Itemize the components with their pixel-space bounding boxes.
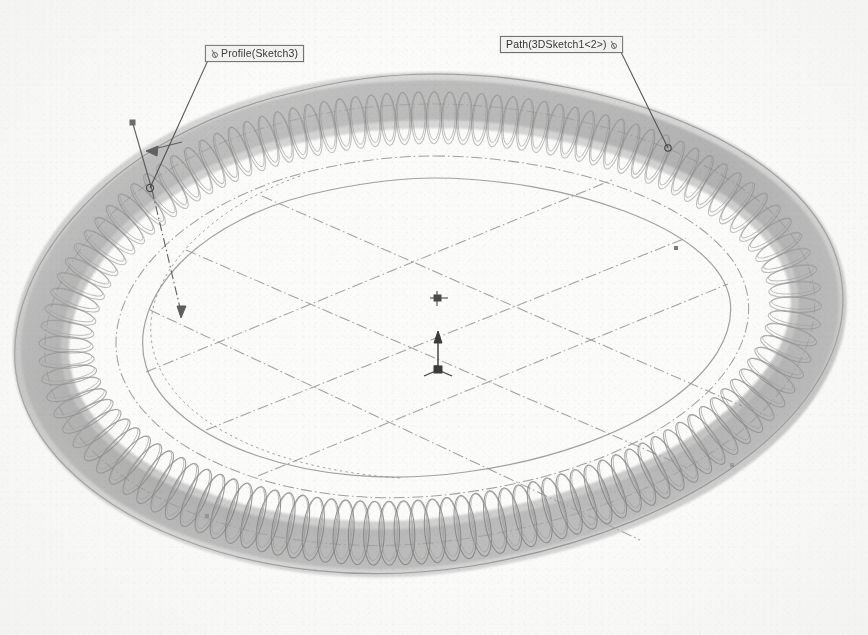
- sweep-path-anchor-icon[interactable]: [610, 41, 617, 48]
- callout-profile-label: Profile(Sketch3): [221, 47, 298, 60]
- cad-viewport[interactable]: Profile(Sketch3) Path(3DSketch1<2>): [0, 0, 868, 635]
- sweep-profile-anchor-icon[interactable]: [211, 50, 218, 57]
- cad-scene-graphics: [0, 0, 868, 635]
- callout-profile-sketch3[interactable]: Profile(Sketch3): [205, 45, 304, 62]
- origin-axis-marker: [424, 331, 452, 376]
- callout-path-label: Path(3DSketch1<2>): [506, 38, 607, 51]
- origin-secondary-marker: [430, 291, 448, 306]
- callout-path-3dsketch1[interactable]: Path(3DSketch1<2>): [500, 36, 623, 53]
- swept-coil-body: [41, 100, 819, 549]
